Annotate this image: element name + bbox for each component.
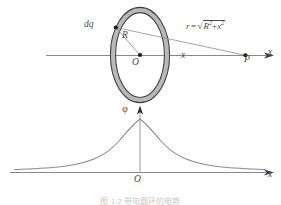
formula-radicand: R2+x2: [203, 20, 226, 31]
physics-figure: dq R O x P x r=√R2+x2 φ O x 图 1-2 带电圆环的电…: [0, 0, 281, 205]
plot-x-axis-label: x: [268, 170, 272, 180]
radical-icon: √: [198, 21, 203, 31]
ring-center-label: O: [132, 58, 139, 68]
field-point-label: P: [244, 55, 250, 65]
potential-axis-label: φ: [122, 104, 128, 114]
charge-element-point: [114, 25, 118, 29]
plot-origin-label: O: [134, 175, 141, 185]
figure-caption: 图 1-2 带电圆环的电势: [0, 195, 281, 205]
axial-distance-label: x: [181, 51, 185, 61]
radius-label: R: [122, 31, 128, 41]
top-axis: [46, 52, 274, 58]
bottom-x-axis: [10, 169, 274, 175]
formula-radicand-second-exp: 2: [221, 20, 224, 26]
charge-element-label: dq: [84, 20, 94, 30]
formula-equals: =: [191, 21, 196, 31]
distance-formula: r=√R2+x2: [186, 22, 225, 31]
top-axis-label: x: [268, 48, 272, 58]
bottom-phi-axis: [137, 106, 143, 173]
formula-lhs: r: [186, 21, 190, 31]
